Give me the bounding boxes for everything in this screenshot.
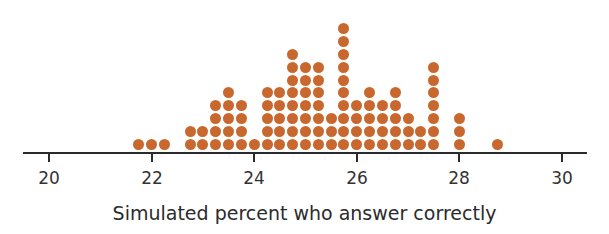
data-point: [313, 87, 324, 98]
data-point: [338, 49, 349, 60]
data-point: [287, 100, 298, 111]
data-point: [223, 126, 234, 137]
data-point: [338, 23, 349, 34]
data-point: [403, 139, 414, 150]
data-point: [428, 100, 439, 111]
data-point: [428, 62, 439, 73]
data-point: [428, 75, 439, 86]
data-point: [274, 139, 285, 150]
data-point: [210, 100, 221, 111]
x-tick: [356, 153, 358, 162]
data-point: [364, 139, 375, 150]
data-point: [313, 62, 324, 73]
data-point: [428, 113, 439, 124]
data-point: [287, 139, 298, 150]
data-point: [492, 139, 503, 150]
data-point: [146, 139, 157, 150]
data-point: [274, 100, 285, 111]
data-point: [313, 126, 324, 137]
data-point: [364, 87, 375, 98]
data-point: [274, 126, 285, 137]
data-point: [287, 75, 298, 86]
data-point: [249, 139, 260, 150]
data-point: [454, 113, 465, 124]
data-point: [287, 126, 298, 137]
data-point: [326, 139, 337, 150]
data-point: [390, 113, 401, 124]
data-point: [351, 100, 362, 111]
x-tick: [151, 153, 153, 162]
data-point: [274, 113, 285, 124]
data-point: [338, 113, 349, 124]
data-point: [236, 126, 247, 137]
data-point: [300, 75, 311, 86]
data-point: [377, 139, 388, 150]
data-point: [428, 139, 439, 150]
data-point: [403, 126, 414, 137]
data-point: [390, 139, 401, 150]
data-point: [313, 100, 324, 111]
data-point: [185, 126, 196, 137]
x-tick-label: 28: [439, 168, 479, 188]
data-point: [236, 100, 247, 111]
data-point: [390, 100, 401, 111]
data-point: [326, 126, 337, 137]
data-point: [223, 113, 234, 124]
data-point: [223, 100, 234, 111]
data-point: [338, 126, 349, 137]
data-point: [210, 126, 221, 137]
data-point: [351, 139, 362, 150]
x-tick-label: 26: [337, 168, 377, 188]
data-point: [262, 126, 273, 137]
data-point: [338, 100, 349, 111]
data-point: [287, 49, 298, 60]
data-point: [377, 126, 388, 137]
data-point: [262, 100, 273, 111]
data-point: [364, 113, 375, 124]
data-point: [185, 139, 196, 150]
data-point: [428, 87, 439, 98]
x-tick-label: 22: [132, 168, 172, 188]
data-point: [300, 113, 311, 124]
data-point: [197, 139, 208, 150]
data-point: [300, 139, 311, 150]
data-point: [326, 113, 337, 124]
data-point: [223, 139, 234, 150]
x-axis-line: [23, 152, 587, 154]
data-point: [338, 87, 349, 98]
data-point: [300, 62, 311, 73]
x-tick-label: 20: [29, 168, 69, 188]
data-point: [428, 126, 439, 137]
data-point: [223, 87, 234, 98]
data-point: [415, 139, 426, 150]
data-point: [262, 113, 273, 124]
data-point: [364, 126, 375, 137]
data-point: [236, 139, 247, 150]
data-point: [313, 75, 324, 86]
data-point: [133, 139, 144, 150]
data-point: [377, 113, 388, 124]
data-point: [338, 75, 349, 86]
data-point: [351, 126, 362, 137]
x-tick-label: 24: [234, 168, 274, 188]
x-tick: [458, 153, 460, 162]
data-point: [197, 126, 208, 137]
data-point: [403, 113, 414, 124]
data-point: [210, 113, 221, 124]
data-point: [300, 126, 311, 137]
x-axis-label: Simulated percent who answer correctly: [0, 202, 609, 224]
data-point: [390, 87, 401, 98]
data-point: [454, 126, 465, 137]
data-point: [454, 139, 465, 150]
data-point: [415, 126, 426, 137]
data-point: [159, 139, 170, 150]
data-point: [210, 139, 221, 150]
dot-plot-chart: 20 22 24 26 28 30 Simulated percent who …: [0, 0, 609, 234]
data-point: [262, 87, 273, 98]
data-point: [287, 113, 298, 124]
data-point: [338, 139, 349, 150]
x-tick-label: 30: [542, 168, 582, 188]
data-point: [287, 87, 298, 98]
data-point: [377, 100, 388, 111]
data-point: [338, 36, 349, 47]
